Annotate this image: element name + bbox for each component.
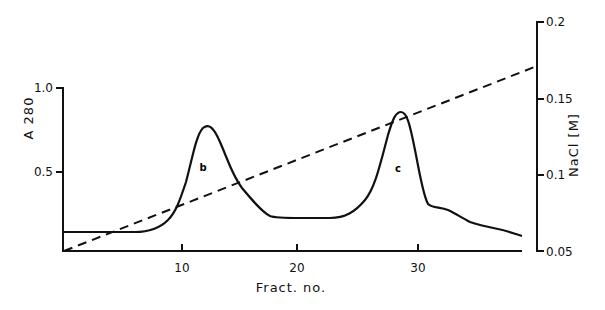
y2-tick-3: 0.2	[546, 15, 565, 29]
y-tick-1: 1.0	[34, 81, 53, 95]
x-axis-title: Fract. no.	[256, 280, 326, 295]
y2-tick-1: 0.1	[546, 168, 565, 182]
y-tick-0: 0.5	[34, 165, 53, 179]
peak-label-c: c	[395, 163, 401, 174]
peak-label-b: b	[199, 162, 206, 173]
chart: 1.0 0.5 A 280 0.2 0.15 0.1 0.05 NaCl [M]…	[0, 0, 605, 310]
y2-tick-0: 0.05	[546, 245, 573, 259]
nacl-gradient-line	[64, 66, 537, 251]
y2-tick-2: 0.15	[546, 92, 573, 106]
x-tick-1: 20	[289, 261, 304, 275]
y-axis-title: A 280	[21, 97, 36, 140]
a280-curve	[63, 112, 522, 236]
x-tick-0: 10	[174, 261, 189, 275]
y2-axis-title: NaCl [M]	[566, 113, 581, 177]
x-tick-2: 30	[410, 261, 425, 275]
